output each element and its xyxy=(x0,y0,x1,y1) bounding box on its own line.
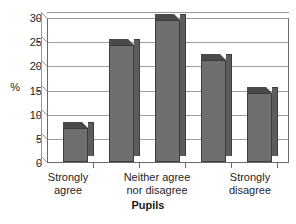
x-category-label-line2: agree xyxy=(30,184,106,197)
bar-side-face xyxy=(180,14,186,156)
bar-agree xyxy=(109,39,134,162)
bar-front-face xyxy=(63,128,88,162)
x-tick-mark-3 xyxy=(185,163,186,168)
bar-side-face xyxy=(226,54,232,156)
bar-front-face xyxy=(155,20,180,162)
y-axis-title: % xyxy=(4,81,20,94)
bar-side-face xyxy=(134,39,140,156)
y-tick-mark-0 xyxy=(36,163,41,164)
bar-side-face xyxy=(272,87,278,156)
x-category-label-line2: nor disagree xyxy=(112,184,202,197)
bar-front-face xyxy=(109,45,134,162)
x-category-label-neither-agree-nor-disagree: Neither agree nor disagree xyxy=(112,171,202,197)
bar-front-face xyxy=(247,93,272,162)
plot-area xyxy=(47,18,289,163)
bar-chart-figure: % 30 25 20 15 10 5 0 xyxy=(0,0,296,224)
x-category-label-line1: Strongly xyxy=(30,171,106,184)
bar-disagree xyxy=(201,54,226,162)
bar-strongly-disagree xyxy=(247,87,272,162)
bar-front-face xyxy=(201,60,226,162)
bar-neither-agree-nor-disagree xyxy=(155,14,180,162)
x-tick-mark-2 xyxy=(139,163,140,168)
x-category-label-line1: Strongly xyxy=(212,171,288,184)
x-category-label-strongly-agree: Strongly agree xyxy=(30,171,106,197)
x-tick-mark-1 xyxy=(93,163,94,168)
bar-strongly-agree xyxy=(63,122,88,162)
x-category-label-line1: Neither agree xyxy=(112,171,202,184)
x-axis-title: Pupils xyxy=(0,199,296,211)
bar-side-face xyxy=(88,122,94,156)
x-tick-mark-4 xyxy=(231,163,232,168)
x-category-label-line2: disagree xyxy=(212,184,288,197)
x-tick-mark-5 xyxy=(277,163,278,168)
x-category-label-strongly-disagree: Strongly disagree xyxy=(212,171,288,197)
plot-depth-top-edge xyxy=(47,12,289,13)
